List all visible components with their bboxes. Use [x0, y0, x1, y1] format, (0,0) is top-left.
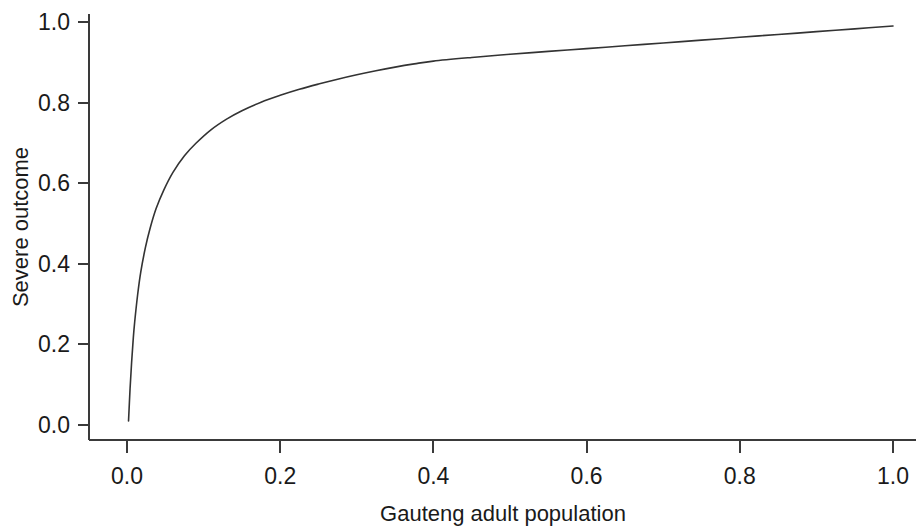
chart-plot-area: 1.0 0.8 0.6 0.4 0.2 0.0 0.0 0.2 0.4 0.6 …	[0, 0, 916, 532]
x-axis-tick-labels: 0.0 0.2 0.4 0.6 0.8 1.0	[111, 463, 909, 489]
x-tick-label-0.2: 0.2	[264, 463, 296, 489]
y-tick-label-0.8: 0.8	[38, 90, 70, 116]
x-axis-ticks	[127, 440, 893, 453]
y-tick-label-0.0: 0.0	[38, 412, 70, 438]
y-axis-tick-labels: 1.0 0.8 0.6 0.4 0.2 0.0	[38, 9, 70, 438]
severe-outcome-curve	[129, 26, 893, 421]
x-tick-label-0.4: 0.4	[417, 463, 449, 489]
x-axis-title: Gauteng adult population	[380, 501, 626, 526]
y-axis-ticks	[78, 22, 89, 425]
x-tick-label-0.6: 0.6	[571, 463, 603, 489]
y-tick-label-0.4: 0.4	[38, 251, 70, 277]
x-tick-label-0.8: 0.8	[724, 463, 756, 489]
y-axis-title: Severe outcome	[8, 147, 33, 307]
y-tick-label-0.2: 0.2	[38, 331, 70, 357]
y-tick-label-0.6: 0.6	[38, 170, 70, 196]
x-tick-label-1.0: 1.0	[877, 463, 909, 489]
y-tick-label-1.0: 1.0	[38, 9, 70, 35]
chart-figure: 1.0 0.8 0.6 0.4 0.2 0.0 0.0 0.2 0.4 0.6 …	[0, 0, 916, 532]
x-tick-label-0.0: 0.0	[111, 463, 143, 489]
